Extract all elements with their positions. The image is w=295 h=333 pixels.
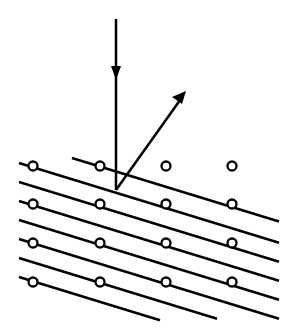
diffracted-beam bbox=[116, 91, 186, 190]
diffraction-diagram bbox=[0, 0, 295, 333]
lattice-atom bbox=[162, 162, 171, 171]
incident-beam bbox=[111, 19, 121, 190]
lattice-atom bbox=[29, 200, 38, 209]
lattice-atom bbox=[29, 239, 38, 248]
lattice-atom bbox=[29, 278, 38, 287]
lattice-atom bbox=[96, 162, 105, 171]
lattice-atom bbox=[228, 200, 237, 209]
lattice-atom bbox=[228, 162, 237, 171]
incident-arrowhead-icon bbox=[111, 66, 121, 80]
lattice-atom bbox=[96, 200, 105, 209]
lattice-planes bbox=[19, 158, 279, 320]
lattice-atom bbox=[29, 162, 38, 171]
lattice-atom bbox=[162, 200, 171, 209]
lattice-atom bbox=[228, 239, 237, 248]
lattice-atom bbox=[96, 278, 105, 287]
lattice-atom bbox=[228, 278, 237, 287]
lattice-atom bbox=[162, 278, 171, 287]
lattice-atom bbox=[96, 239, 105, 248]
lattice-atoms bbox=[29, 162, 237, 287]
lattice-plane bbox=[19, 277, 160, 320]
lattice-atom bbox=[162, 239, 171, 248]
lattice-plane bbox=[19, 258, 217, 319]
